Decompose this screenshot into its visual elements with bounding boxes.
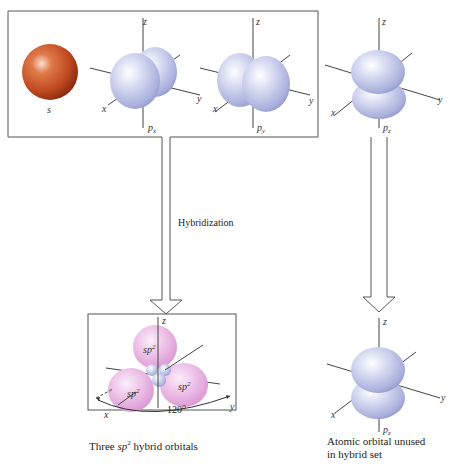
- hybridization-label: Hybridization: [178, 217, 234, 228]
- s-orbital-label: s: [47, 104, 51, 115]
- unused-x-axis-label: x: [330, 409, 336, 420]
- bond-angle-label: 120°: [167, 404, 186, 415]
- unused-pz-orbital: [327, 318, 440, 432]
- px-y-axis-label: y: [196, 93, 202, 104]
- hybrid-z-axis-label: z: [161, 315, 166, 326]
- hybrid-caption: Three sp2 hybrid orbitals: [89, 437, 198, 453]
- hybrid-x-axis-label: x: [103, 409, 109, 420]
- py-z-axis-label: z: [255, 16, 260, 27]
- px-x-axis-label: x: [101, 103, 107, 114]
- unused-orbital-arrow: [363, 137, 395, 312]
- s-orbital: [22, 44, 78, 100]
- unused-z-axis-label: z: [382, 316, 387, 327]
- unused-y-axis-label: y: [440, 392, 446, 403]
- hybrid-y-axis-label: y: [229, 401, 235, 412]
- py-label: py: [256, 122, 266, 135]
- sp2-hybrid-orbitals: [96, 317, 230, 412]
- hybridization-diagram: s z x y px z x y py z x y pz Hybridizati…: [0, 0, 451, 466]
- hybridization-arrow: [150, 300, 182, 314]
- py-y-axis-label: y: [308, 95, 314, 106]
- px-orbital: [90, 18, 200, 128]
- unused-orbital-caption: Atomic orbital unused in hybrid set: [327, 435, 425, 461]
- pz-orbital: [325, 18, 440, 128]
- px-z-axis-label: z: [142, 16, 147, 27]
- pz-y-axis-label: y: [437, 94, 443, 105]
- pz-label: pz: [382, 122, 391, 135]
- pz-z-axis-label: z: [381, 16, 386, 27]
- py-x-axis-label: x: [212, 103, 218, 114]
- px-label: px: [147, 122, 157, 135]
- pz-x-axis-label: x: [330, 107, 336, 118]
